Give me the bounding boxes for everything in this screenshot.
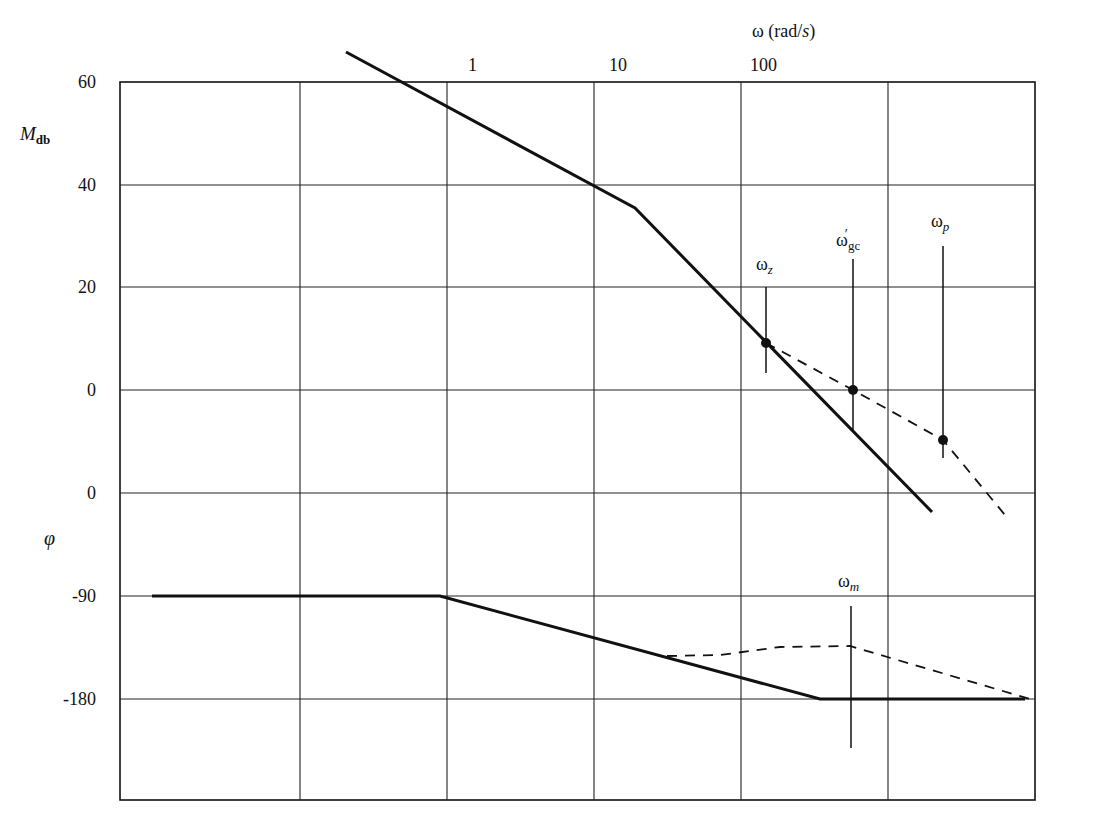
- magnitude-compensated-line: [766, 343, 1005, 515]
- omega-p-sub: p: [943, 219, 950, 234]
- omega-m-label: ωm: [838, 572, 859, 593]
- x-axis-unit-close: ): [809, 21, 815, 41]
- y-tick-0-magnitude: 0: [36, 381, 96, 399]
- plot-frame: [120, 82, 1035, 800]
- x-axis-unit-open: (rad/: [764, 21, 802, 41]
- x-tick-1: 1: [468, 56, 477, 74]
- bode-plot: [0, 0, 1099, 823]
- x-tick-10: 10: [609, 56, 627, 74]
- omega-m-main: ω: [838, 571, 850, 591]
- y-tick-40: 40: [36, 176, 96, 194]
- magnitude-axis-main: M: [20, 123, 36, 144]
- omega-p-label: ωp: [931, 212, 949, 233]
- x-axis-omega-symbol: ω: [752, 21, 764, 41]
- magnitude-axis-sub: db: [36, 132, 50, 147]
- magnitude-axis-label: Mdb: [20, 124, 50, 146]
- y-tick-0-phase: 0: [36, 484, 96, 502]
- phase-axis-label: φ: [44, 528, 55, 548]
- omega-m-sub: m: [850, 579, 859, 594]
- omega-p-point: [938, 435, 948, 445]
- omega-gc-point: [848, 385, 858, 395]
- x-tick-100: 100: [750, 56, 777, 74]
- y-tick-minus-180: -180: [36, 690, 96, 708]
- phase-uncompensated-line: [152, 596, 1025, 699]
- omega-z-point: [761, 338, 771, 348]
- omega-z-sub: z: [768, 262, 773, 277]
- y-tick-60: 60: [36, 73, 96, 91]
- omega-p-main: ω: [931, 211, 943, 231]
- x-axis-label: ω (rad/s): [752, 22, 815, 40]
- magnitude-uncompensated-line: [346, 52, 932, 512]
- omega-z-label: ωz: [756, 255, 773, 276]
- y-tick-minus-90: -90: [36, 587, 96, 605]
- omega-z-main: ω: [756, 254, 768, 274]
- omega-gc-label: ω′gc: [836, 228, 860, 252]
- y-tick-20: 20: [36, 278, 96, 296]
- horizontal-gridlines: [120, 185, 1035, 699]
- omega-gc-sub: gc: [848, 238, 860, 253]
